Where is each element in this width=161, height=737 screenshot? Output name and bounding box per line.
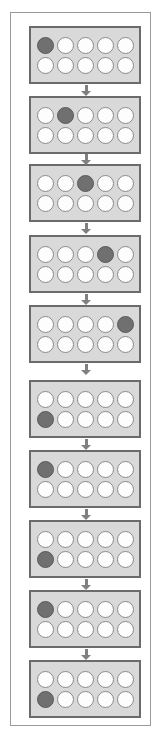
empty-circle[interactable] — [97, 481, 114, 498]
empty-circle[interactable] — [77, 461, 94, 478]
filled-circle[interactable] — [117, 316, 134, 333]
empty-circle[interactable] — [97, 621, 114, 638]
empty-circle[interactable] — [97, 316, 114, 333]
empty-circle[interactable] — [77, 411, 94, 428]
empty-circle[interactable] — [57, 531, 74, 548]
empty-circle[interactable] — [97, 691, 114, 708]
empty-circle[interactable] — [97, 601, 114, 618]
empty-circle[interactable] — [57, 266, 74, 283]
state-panel[interactable] — [29, 590, 141, 648]
empty-circle[interactable] — [37, 621, 54, 638]
empty-circle[interactable] — [57, 195, 74, 212]
empty-circle[interactable] — [77, 691, 94, 708]
state-panel[interactable] — [29, 235, 141, 293]
empty-circle[interactable] — [97, 57, 114, 74]
empty-circle[interactable] — [57, 691, 74, 708]
empty-circle[interactable] — [97, 175, 114, 192]
empty-circle[interactable] — [97, 336, 114, 353]
empty-circle[interactable] — [37, 266, 54, 283]
empty-circle[interactable] — [97, 266, 114, 283]
filled-circle[interactable] — [37, 691, 54, 708]
empty-circle[interactable] — [37, 175, 54, 192]
empty-circle[interactable] — [37, 57, 54, 74]
empty-circle[interactable] — [97, 411, 114, 428]
empty-circle[interactable] — [117, 107, 134, 124]
empty-circle[interactable] — [57, 411, 74, 428]
empty-circle[interactable] — [77, 107, 94, 124]
state-panel[interactable] — [29, 164, 141, 222]
empty-circle[interactable] — [117, 246, 134, 263]
empty-circle[interactable] — [57, 481, 74, 498]
empty-circle[interactable] — [117, 621, 134, 638]
empty-circle[interactable] — [117, 531, 134, 548]
empty-circle[interactable] — [97, 107, 114, 124]
empty-circle[interactable] — [77, 601, 94, 618]
empty-circle[interactable] — [117, 411, 134, 428]
empty-circle[interactable] — [37, 671, 54, 688]
filled-circle[interactable] — [37, 551, 54, 568]
empty-circle[interactable] — [37, 336, 54, 353]
empty-circle[interactable] — [97, 461, 114, 478]
state-panel[interactable] — [29, 450, 141, 508]
empty-circle[interactable] — [77, 621, 94, 638]
empty-circle[interactable] — [117, 461, 134, 478]
empty-circle[interactable] — [57, 461, 74, 478]
empty-circle[interactable] — [77, 391, 94, 408]
empty-circle[interactable] — [57, 671, 74, 688]
empty-circle[interactable] — [117, 336, 134, 353]
empty-circle[interactable] — [117, 195, 134, 212]
empty-circle[interactable] — [37, 127, 54, 144]
empty-circle[interactable] — [97, 37, 114, 54]
empty-circle[interactable] — [117, 127, 134, 144]
empty-circle[interactable] — [37, 195, 54, 212]
empty-circle[interactable] — [57, 175, 74, 192]
empty-circle[interactable] — [77, 316, 94, 333]
empty-circle[interactable] — [77, 266, 94, 283]
empty-circle[interactable] — [77, 127, 94, 144]
empty-circle[interactable] — [77, 531, 94, 548]
filled-circle[interactable] — [77, 175, 94, 192]
empty-circle[interactable] — [77, 57, 94, 74]
empty-circle[interactable] — [117, 175, 134, 192]
empty-circle[interactable] — [57, 246, 74, 263]
state-panel[interactable] — [29, 660, 141, 718]
empty-circle[interactable] — [117, 551, 134, 568]
empty-circle[interactable] — [117, 481, 134, 498]
empty-circle[interactable] — [77, 336, 94, 353]
state-panel[interactable] — [29, 520, 141, 578]
empty-circle[interactable] — [37, 531, 54, 548]
filled-circle[interactable] — [37, 601, 54, 618]
empty-circle[interactable] — [57, 391, 74, 408]
empty-circle[interactable] — [77, 551, 94, 568]
filled-circle[interactable] — [97, 246, 114, 263]
filled-circle[interactable] — [57, 107, 74, 124]
empty-circle[interactable] — [117, 391, 134, 408]
filled-circle[interactable] — [37, 411, 54, 428]
empty-circle[interactable] — [57, 57, 74, 74]
empty-circle[interactable] — [37, 246, 54, 263]
empty-circle[interactable] — [97, 195, 114, 212]
empty-circle[interactable] — [77, 481, 94, 498]
empty-circle[interactable] — [97, 671, 114, 688]
state-panel[interactable] — [29, 380, 141, 438]
empty-circle[interactable] — [77, 37, 94, 54]
empty-circle[interactable] — [117, 266, 134, 283]
empty-circle[interactable] — [97, 531, 114, 548]
empty-circle[interactable] — [57, 37, 74, 54]
filled-circle[interactable] — [37, 461, 54, 478]
state-panel[interactable] — [29, 96, 141, 154]
empty-circle[interactable] — [117, 691, 134, 708]
empty-circle[interactable] — [57, 621, 74, 638]
empty-circle[interactable] — [97, 551, 114, 568]
empty-circle[interactable] — [57, 336, 74, 353]
empty-circle[interactable] — [57, 601, 74, 618]
empty-circle[interactable] — [77, 246, 94, 263]
empty-circle[interactable] — [97, 127, 114, 144]
filled-circle[interactable] — [37, 37, 54, 54]
empty-circle[interactable] — [77, 195, 94, 212]
empty-circle[interactable] — [117, 37, 134, 54]
empty-circle[interactable] — [37, 316, 54, 333]
empty-circle[interactable] — [117, 671, 134, 688]
empty-circle[interactable] — [57, 127, 74, 144]
empty-circle[interactable] — [117, 57, 134, 74]
